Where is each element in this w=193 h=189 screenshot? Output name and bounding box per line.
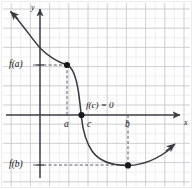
plot-canvas: [0, 0, 193, 189]
f-of-a-label: f(a): [9, 60, 23, 70]
point-c-root: [78, 112, 84, 118]
point-a-fa: [64, 62, 70, 68]
root-annotation: f(c) = 0: [86, 101, 114, 110]
function-graph-figure: y x f(a) f(b) a c b f(c) = 0: [0, 0, 193, 189]
f-of-b-label: f(b): [9, 160, 23, 170]
x-axis-label: x: [184, 119, 188, 127]
point-b-fb: [125, 162, 131, 168]
y-axis-label: y: [31, 4, 35, 12]
tick-label-c: c: [87, 120, 91, 130]
tick-label-a: a: [64, 120, 69, 130]
tick-label-b: b: [125, 120, 130, 130]
